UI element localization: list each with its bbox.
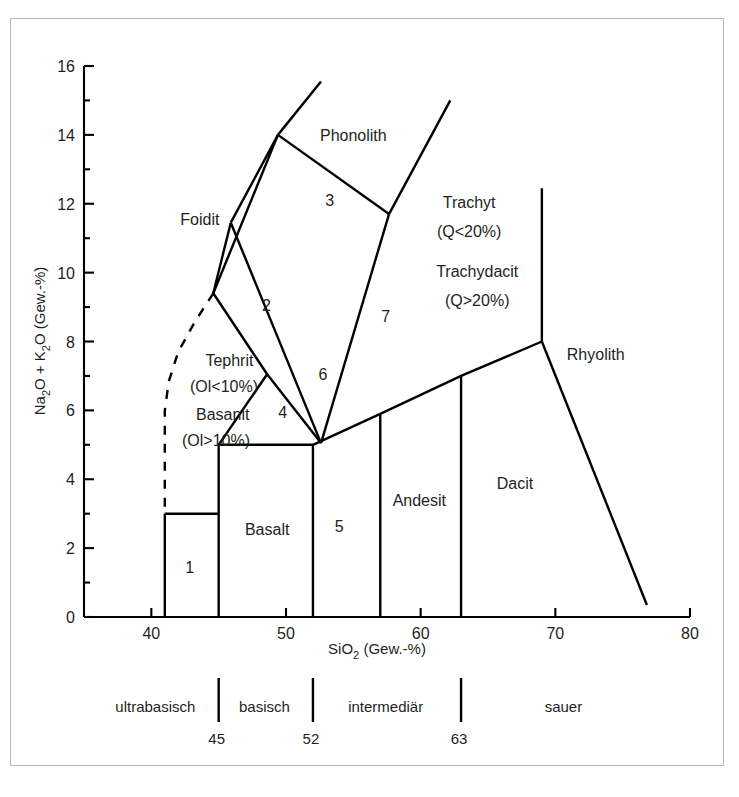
tas-diagram-svg: 0246810121416 4050607080 SiO2 (Gew.-%) N… xyxy=(0,0,739,797)
y-axis-title-a: Na xyxy=(31,395,48,415)
y-tick-label: 4 xyxy=(66,471,75,488)
x-axis-title-pre: SiO xyxy=(328,640,353,657)
field-label-dacit: Dacit xyxy=(497,475,534,492)
y-axis-title-c: O (Gew.-%) xyxy=(31,267,48,345)
y-tick-label: 8 xyxy=(66,334,75,351)
field-number-5: 5 xyxy=(335,518,344,535)
field-label-rhyolith: Rhyolith xyxy=(567,346,625,363)
y-axis-ticks xyxy=(84,66,94,617)
y-tick-label: 10 xyxy=(57,265,75,282)
boundary-phonolith-right-up xyxy=(389,100,450,214)
field-label-ol<10%: (Ol<10%) xyxy=(190,378,258,395)
field-label-basanit: Basanit xyxy=(196,406,250,423)
classification-divider-value-63: 63 xyxy=(451,730,468,747)
y-tick-label: 12 xyxy=(57,196,75,213)
x-tick-label: 40 xyxy=(142,625,160,642)
field-label-trachydacit: Trachydacit xyxy=(436,263,519,280)
field-number-3: 3 xyxy=(325,192,334,209)
y-tick-label: 6 xyxy=(66,402,75,419)
boundary-dacit-rhyolith xyxy=(542,342,647,605)
boundary-phonolith-left-up xyxy=(278,81,321,134)
svg-text:Na2O + K2O (Gew.-%): Na2O + K2O (Gew.-%) xyxy=(31,267,52,416)
y-tick-label: 16 xyxy=(57,58,75,75)
field-label-phonolith: Phonolith xyxy=(320,127,387,144)
classification-divider-value-45: 45 xyxy=(208,730,225,747)
field-label-andesit: Andesit xyxy=(393,492,447,509)
x-tick-label: 50 xyxy=(277,625,295,642)
y-tick-label: 2 xyxy=(66,540,75,557)
classification-label-intermediär: intermediär xyxy=(348,698,423,715)
x-axis-ticks xyxy=(151,608,690,617)
classification-label-ultrabasisch: ultrabasisch xyxy=(115,698,195,715)
boundary-tephrit-base-right xyxy=(267,374,321,443)
field-label-q<20%: (Q<20%) xyxy=(437,223,501,240)
boundary-field3-left xyxy=(231,135,278,223)
y-axis-title: Na2O + K2O (Gew.-%) xyxy=(31,267,52,416)
field-label-trachyt: Trachyt xyxy=(443,194,496,211)
svg-text:SiO2 (Gew.-%): SiO2 (Gew.-%) xyxy=(328,640,426,661)
x-axis-title: SiO2 (Gew.-%) xyxy=(328,640,426,661)
boundary-foidit-right-lower xyxy=(213,135,278,293)
y-tick-label: 0 xyxy=(66,609,75,626)
x-tick-label: 70 xyxy=(546,625,564,642)
y-tick-label: 14 xyxy=(57,127,75,144)
x-tick-label: 80 xyxy=(681,625,699,642)
x-axis-title-post: (Gew.-%) xyxy=(359,640,426,657)
y-axis-title-b: O + K xyxy=(31,351,48,390)
tas-diagram-figure: 0246810121416 4050607080 SiO2 (Gew.-%) N… xyxy=(0,0,739,797)
boundary-trachyt-left xyxy=(321,214,389,443)
field-number-6: 6 xyxy=(319,366,328,383)
boundary-foidit-basanit-dashed xyxy=(165,293,213,513)
classification-label-sauer: sauer xyxy=(545,698,583,715)
field-label-foidit: Foidit xyxy=(180,211,220,228)
field-label-tephrit: Tephrit xyxy=(205,352,254,369)
dashed-boundary-group xyxy=(165,293,213,513)
field-number-2: 2 xyxy=(262,297,271,314)
classification-label-basisch: basisch xyxy=(239,698,290,715)
field-label-basalt: Basalt xyxy=(245,521,290,538)
field-number-4: 4 xyxy=(278,404,287,421)
field-number-1: 1 xyxy=(185,559,194,576)
field-number-7: 7 xyxy=(381,308,390,325)
y-axis-tick-labels: 0246810121416 xyxy=(57,58,75,626)
field-label-ol>10%: (Ol>10%) xyxy=(182,432,250,449)
field-label-q>20%: (Q>20%) xyxy=(445,292,509,309)
classification-divider-value-52: 52 xyxy=(303,730,320,747)
classification-bar-group: 455263ultrabasischbasischintermediärsaue… xyxy=(115,678,582,747)
